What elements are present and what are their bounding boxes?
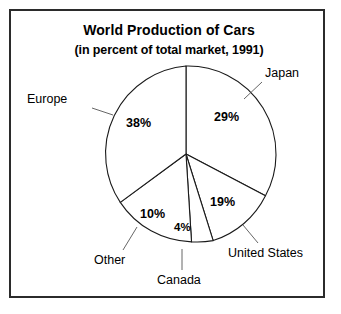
pie-chart-graphic [0,0,341,314]
slice-label-united-states: United States [228,246,303,260]
slice-value-japan: 29% [214,110,239,124]
slice-label-japan: Japan [265,66,299,80]
slice-value-other: 10% [140,207,165,221]
slice-label-europe: Europe [27,92,67,106]
slice-label-canada: Canada [157,273,201,287]
leader-line-united-states [243,225,258,243]
slice-value-united-states: 19% [210,195,235,209]
leader-line-other [123,227,137,250]
slice-value-europe: 38% [126,116,151,130]
chart-figure: World Production of Cars (in percent of … [0,0,341,314]
leader-line-europe [92,108,113,115]
slice-value-canada: 4% [174,221,191,233]
slice-label-other: Other [94,253,125,267]
